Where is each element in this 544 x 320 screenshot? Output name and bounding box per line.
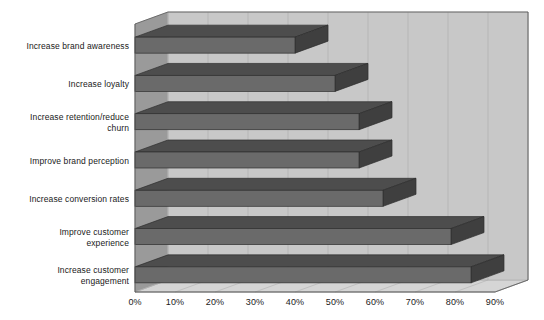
bar-front-face (135, 37, 295, 53)
x-axis-tick-label: 10% (155, 297, 195, 307)
bar-group (135, 63, 368, 91)
bar-group (135, 255, 504, 283)
x-axis-tick-label: 90% (475, 297, 515, 307)
bar-top-face (135, 63, 368, 75)
bar-top-face (135, 178, 416, 190)
bar-top-face (135, 140, 392, 152)
bar-top-face (135, 217, 484, 229)
bar-group (135, 178, 416, 206)
bar-front-face (135, 152, 359, 168)
x-axis-tick-label: 40% (275, 297, 315, 307)
bar-front-face (135, 75, 335, 91)
x-axis-tick-label: 60% (355, 297, 395, 307)
x-axis-tick-label: 80% (435, 297, 475, 307)
bar-front-face (135, 267, 471, 283)
category-label: Increase conversion rates (1, 194, 129, 205)
bar-group (135, 217, 484, 245)
bar-front-face (135, 229, 451, 245)
bar-group (135, 25, 328, 53)
bar-front-face (135, 114, 359, 130)
x-axis-tick-label: 50% (315, 297, 355, 307)
category-label: Increase customer engagement (1, 265, 129, 286)
category-label: Increase brand awareness (1, 41, 129, 52)
bar-chart: Increase brand awarenessIncrease loyalty… (0, 0, 544, 320)
bar-front-face (135, 190, 383, 206)
category-label: Increase loyalty (1, 79, 129, 90)
category-label: Improve brand perception (1, 156, 129, 167)
bar-top-face (135, 102, 392, 114)
category-label: Increase retention/reduce churn (1, 112, 129, 133)
bar-top-face (135, 255, 504, 267)
bar-group (135, 102, 392, 130)
x-axis-tick-label: 30% (235, 297, 275, 307)
x-axis-tick-label: 20% (195, 297, 235, 307)
x-axis-tick-label: 0% (115, 297, 155, 307)
category-label: Improve customer experience (1, 227, 129, 248)
bar-group (135, 140, 392, 168)
x-axis-tick-label: 70% (395, 297, 435, 307)
